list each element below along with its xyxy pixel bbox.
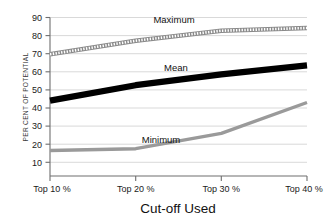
- x-tick-label: Top 40 %: [285, 184, 323, 194]
- chart-container: 90 80 70 60 50 40 30 20 10 Top 10 % Top …: [0, 0, 331, 222]
- y-tick-label: 10: [32, 158, 42, 168]
- y-tick-label: 40: [32, 103, 42, 113]
- y-tick-label: 90: [32, 13, 42, 23]
- x-axis-title: Cut-off Used: [140, 201, 216, 216]
- y-tick-label: 60: [32, 67, 42, 77]
- x-tick-label: Top 10 %: [33, 184, 71, 194]
- x-tick-labels: Top 10 % Top 20 % Top 30 % Top 40 %: [33, 184, 323, 194]
- series-label-mean: Mean: [164, 62, 188, 73]
- x-tick-label: Top 30 %: [203, 184, 241, 194]
- y-tick-label: 80: [32, 31, 42, 41]
- series-label-maximum: Maximum: [153, 14, 194, 25]
- x-tick-marks: [50, 176, 307, 181]
- series-label-minimum: Minimum: [142, 134, 181, 145]
- y-axis-title: PER CENT OF POTENTIAL: [22, 52, 29, 141]
- y-tick-label: 50: [32, 85, 42, 95]
- y-tick-marks: [46, 18, 51, 163]
- line-chart: 90 80 70 60 50 40 30 20 10 Top 10 % Top …: [0, 0, 331, 222]
- y-tick-labels: 90 80 70 60 50 40 30 20 10: [32, 13, 42, 168]
- y-tick-label: 30: [32, 121, 42, 131]
- y-tick-label: 20: [32, 140, 42, 150]
- x-tick-label: Top 20 %: [117, 184, 155, 194]
- y-tick-label: 70: [32, 49, 42, 59]
- series-maximum-band: [50, 28, 307, 54]
- series-maximum: [50, 28, 307, 54]
